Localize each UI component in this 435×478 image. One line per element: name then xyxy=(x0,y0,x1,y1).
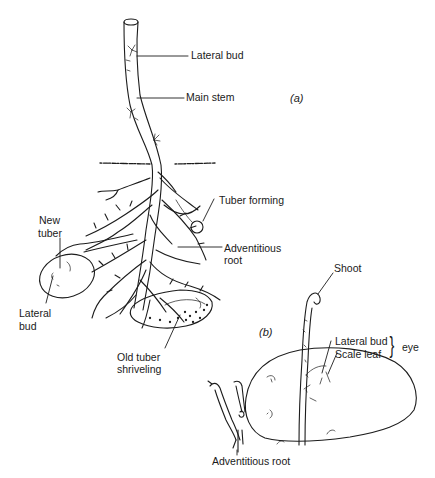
panel-label-a: (a) xyxy=(290,92,303,104)
seed-tuber-drawing xyxy=(245,348,416,444)
old-tuber-drawing xyxy=(130,290,212,328)
label-shoot: Shoot xyxy=(334,262,361,274)
label-scale-leaf: Scale leaf xyxy=(335,348,381,360)
label-eye: eye xyxy=(402,341,419,353)
label-lateral-bud-tuber-line1: Lateral xyxy=(19,307,51,319)
label-old-tuber-line1: Old tuber xyxy=(117,351,160,363)
label-lateral-bud-stem: Lateral bud xyxy=(191,49,244,61)
label-new-tuber-line1: New xyxy=(39,214,60,226)
label-lateral-bud-tuber-line2: bud xyxy=(19,320,37,332)
label-lateral-bud-eye: Lateral bud xyxy=(335,335,388,347)
soil-surface-line xyxy=(100,163,215,164)
label-old-tuber-line2: shriveling xyxy=(117,363,161,375)
label-main-stem: Main stem xyxy=(186,91,234,103)
label-adventitious-root-line1: Adventitious xyxy=(224,242,281,254)
label-adventitious-root-line2: root xyxy=(224,254,242,266)
label-new-tuber-line2: tuber xyxy=(38,227,62,239)
new-tuber-drawing xyxy=(34,247,100,304)
eye-brace-icon: } xyxy=(390,333,395,357)
left-sprout-drawing xyxy=(208,381,245,452)
potato-plant-figure: Lateral bud Main stem (a) Tuber forming … xyxy=(0,0,435,478)
panel-label-b-text: (b) xyxy=(259,326,272,338)
shoot-drawing xyxy=(299,293,326,445)
root-system-drawing xyxy=(56,172,220,328)
panel-label-a-text: (a) xyxy=(290,92,303,104)
label-tuber-forming: Tuber forming xyxy=(219,194,284,206)
panel-label-b: (b) xyxy=(259,326,272,338)
potato-plant-illustration xyxy=(0,0,435,478)
label-adventitious-root-b: Adventitious root xyxy=(212,455,290,467)
